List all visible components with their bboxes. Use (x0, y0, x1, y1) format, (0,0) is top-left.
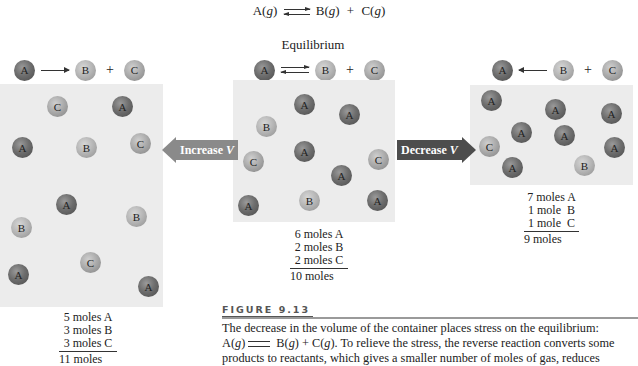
molecule-c-icon: C (364, 60, 385, 81)
left-mole-tally: 5 moles A 3 moles B 3 moles C 11 moles (59, 311, 117, 366)
volume-symbol: V (226, 143, 234, 158)
tally-c: 2 moles C (290, 254, 348, 267)
caption-line-3: products to reactants, which gives a sma… (222, 351, 638, 366)
caption-line-1: The decrease in the volume of the contai… (222, 321, 638, 336)
molecule-a-icon: A (254, 60, 275, 81)
molecule-a-icon: A (502, 157, 523, 178)
forward-arrow-icon (41, 70, 69, 71)
paren: ) (381, 3, 385, 18)
molecule-b-icon: B (574, 155, 595, 176)
molecule-a-icon: A (331, 165, 352, 186)
plus-sign: + (106, 62, 114, 78)
molecule-a-icon: A (481, 90, 502, 111)
molecule-c-icon: C (479, 136, 500, 157)
product2-label: C( (361, 3, 374, 18)
molecule-b-icon: B (553, 60, 574, 81)
molecule-a-icon: A (604, 137, 625, 158)
caption-text: ). To relieve the stress, the reverse re… (330, 336, 614, 350)
molecule-c-icon: C (602, 60, 623, 81)
molecule-c-icon: C (124, 60, 145, 81)
molecule-a-icon: A (112, 96, 133, 117)
molecule-b-icon: B (11, 217, 32, 238)
molecule-a-icon: A (554, 125, 575, 146)
left-reaction-row: A B + C (14, 59, 145, 81)
tally-c: 3 moles C (59, 337, 117, 350)
caption-text: ) (241, 336, 245, 350)
molecule-c-icon: C (47, 96, 68, 117)
figure-caption: The decrease in the volume of the contai… (222, 321, 638, 366)
molecule-c-icon: C (80, 252, 101, 273)
plus-sign: + (584, 62, 592, 78)
molecule-b-icon: B (75, 60, 96, 81)
center-reaction-row: A B + C (254, 59, 385, 81)
decrease-volume-arrow: DecreaseV (397, 137, 476, 163)
molecule-c-icon: C (130, 133, 151, 154)
caption-text: A( (222, 336, 235, 350)
molecule-b-icon: B (315, 60, 336, 81)
increase-label: Increase (180, 143, 223, 158)
molecule-b-icon: B (126, 206, 147, 227)
molecule-b-icon: B (76, 137, 97, 158)
molecule-a-icon: A (367, 190, 388, 211)
reactant-label: A( (253, 3, 267, 18)
molecule-b-icon: B (299, 190, 320, 211)
right-mole-tally: 7 moles A 1 mole B 1 mole C 9 moles (524, 191, 579, 246)
molecule-a-icon: A (138, 276, 159, 297)
plus-sign: + (346, 62, 354, 78)
caption-text: ) + C( (295, 336, 324, 350)
caption-text: B( (273, 336, 288, 350)
equilibrium-arrows-icon (284, 7, 310, 17)
center-mole-tally: 6 moles A 2 moles B 2 moles C 10 moles (290, 228, 348, 283)
increase-volume-arrow: IncreaseV (162, 137, 238, 163)
paren: ) (273, 3, 277, 18)
reaction-equation: A(g) B(g) + C(g) (0, 3, 638, 19)
right-reaction-row: A B + C (492, 59, 623, 81)
arrow-left-icon (162, 137, 176, 163)
molecule-a-icon: A (14, 60, 35, 81)
molecule-c-icon: C (368, 149, 389, 170)
molecule-a-icon: A (601, 103, 622, 124)
tally-total: 11 moles (59, 353, 117, 366)
molecule-a-icon: A (545, 99, 566, 120)
figure-divider (222, 317, 638, 319)
molecule-a-icon: A (56, 194, 77, 215)
figure-title: FIGURE 9.13 (222, 304, 310, 315)
molecule-a-icon: A (492, 60, 513, 81)
plus-sign: + (347, 3, 354, 18)
tally-total: 9 moles (524, 233, 579, 246)
equilibrium-arrows-icon (281, 65, 309, 75)
tally-c: 1 mole C (524, 217, 579, 230)
molecule-c-icon: C (243, 151, 264, 172)
molecule-a-icon: A (294, 94, 315, 115)
caption-line-2: A(g) B(g) + C(g). To relieve the stress,… (222, 336, 638, 351)
product1-label: B( (316, 3, 329, 18)
tally-total: 10 moles (290, 270, 348, 283)
molecule-a-icon: A (8, 264, 29, 285)
arrow-right-icon (462, 137, 476, 163)
molecule-a-icon: A (238, 195, 259, 216)
molecule-a-icon: A (511, 122, 532, 143)
molecule-a-icon: A (339, 104, 360, 125)
molecule-a-icon: A (294, 141, 315, 162)
molecule-b-icon: B (256, 116, 277, 137)
equilibrium-arrows-icon (248, 340, 270, 348)
paren: ) (335, 3, 339, 18)
equilibrium-title: Equilibrium (253, 37, 373, 53)
volume-symbol: V (450, 143, 458, 158)
decrease-label: Decrease (401, 143, 447, 158)
reverse-arrow-icon (519, 70, 547, 71)
molecule-a-icon: A (12, 137, 33, 158)
